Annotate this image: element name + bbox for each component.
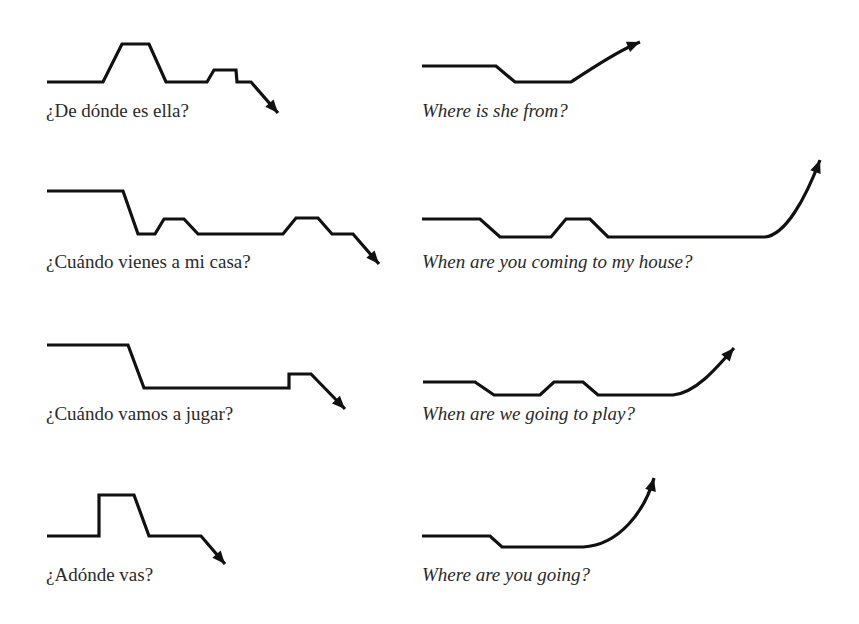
contour-line — [422, 42, 640, 82]
contour-en-1 — [422, 42, 640, 82]
contour-es-4 — [47, 495, 225, 564]
contour-line — [422, 160, 820, 237]
arrow-up-icon — [645, 478, 656, 492]
contour-line — [423, 348, 734, 395]
caption-en-2: When are you coming to my house? — [422, 252, 693, 271]
contour-en-4 — [422, 478, 656, 547]
intonation-diagram: ¿De dónde es ella? Where is she from? ¿C… — [0, 0, 859, 624]
caption-es-2: ¿Cuándo vienes a mi casa? — [46, 252, 251, 271]
caption-en-4: Where are you going? — [422, 565, 590, 584]
contour-line — [422, 478, 654, 547]
contour-line — [47, 495, 225, 564]
contour-en-2 — [422, 160, 821, 237]
arrow-up-icon — [810, 160, 820, 174]
caption-en-1: Where is she from? — [422, 101, 568, 120]
intonation-contours — [0, 0, 859, 624]
caption-es-1: ¿De dónde es ella? — [46, 101, 189, 120]
arrow-up-icon — [626, 42, 640, 52]
caption-es-4: ¿Adónde vas? — [46, 565, 153, 584]
contour-line — [47, 345, 345, 409]
caption-en-3: When are we going to play? — [422, 404, 635, 423]
caption-es-3: ¿Cuándo vamos a jugar? — [46, 404, 233, 423]
contour-es-3 — [47, 345, 345, 409]
contour-en-3 — [423, 348, 734, 395]
